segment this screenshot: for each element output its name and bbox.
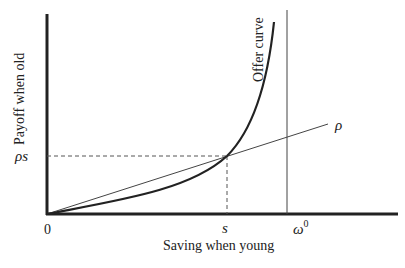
- offer-curve-diagram: Offer curve Payoff when old Saving when …: [0, 0, 405, 268]
- omega-symbol: ω: [293, 221, 304, 237]
- rate-line: [47, 124, 328, 214]
- y-axis-label: Payoff when old: [12, 53, 27, 145]
- s-label: s: [222, 220, 228, 236]
- x-axis-label: Saving when young: [163, 238, 274, 253]
- offer-curve: [47, 22, 274, 214]
- rho-s-label: ρs: [14, 148, 28, 164]
- rate-line-label: ρ: [334, 117, 342, 133]
- origin-label: 0: [44, 222, 51, 237]
- offer-curve-label: Offer curve: [251, 17, 266, 82]
- omega-label: ω0: [293, 218, 309, 237]
- omega-superscript: 0: [304, 218, 309, 229]
